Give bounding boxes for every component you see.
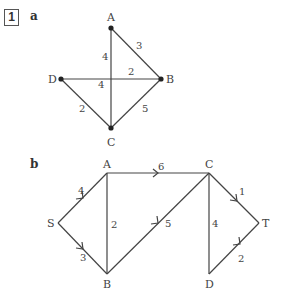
weight-b-sa: 4 — [78, 185, 84, 196]
graph-diagrams: A B C D 3 4 2 4 2 5 S A B — [0, 0, 281, 293]
node-label-a-B: B — [166, 73, 174, 86]
node-label-b-S: S — [47, 217, 55, 230]
node-label-a-D: D — [48, 73, 57, 86]
node-a-C — [108, 125, 113, 130]
node-a-D — [58, 76, 63, 81]
weight-a-db-left: 4 — [98, 79, 104, 90]
weight-a-bc: 5 — [142, 103, 148, 114]
weight-b-ab: 2 — [111, 219, 117, 230]
node-label-b-A: A — [102, 158, 112, 171]
node-label-a-A: A — [106, 11, 116, 24]
node-label-b-B: B — [103, 278, 111, 291]
weight-b-ac: 6 — [158, 161, 164, 172]
edge-b-dt — [209, 223, 259, 274]
node-a-A — [108, 25, 113, 30]
graph-b-labels: S A B C D T 4 3 2 6 5 4 1 2 — [47, 158, 270, 291]
weight-a-db-right: 2 — [128, 66, 134, 77]
weight-a-ab: 3 — [136, 40, 142, 51]
edge-a-bc — [111, 79, 161, 128]
node-a-B — [158, 76, 163, 81]
weight-b-dt: 2 — [238, 253, 244, 264]
node-label-b-T: T — [262, 217, 270, 230]
graph-b-arrows — [76, 169, 240, 249]
node-label-b-C: C — [205, 158, 213, 171]
weight-b-cd: 4 — [212, 218, 218, 229]
arrow-icon-bc — [151, 216, 158, 224]
weight-a-dc: 2 — [79, 103, 85, 114]
weight-b-bc: 5 — [165, 218, 171, 229]
weight-a-ac: 4 — [102, 51, 108, 62]
arrow-icon-dt — [233, 237, 240, 245]
edge-b-ct — [209, 173, 259, 223]
edge-a-ab — [111, 28, 161, 79]
node-label-a-C: C — [107, 136, 115, 149]
weight-b-ct: 1 — [239, 186, 245, 197]
node-label-b-D: D — [205, 278, 214, 291]
weight-b-sb: 3 — [80, 252, 86, 263]
